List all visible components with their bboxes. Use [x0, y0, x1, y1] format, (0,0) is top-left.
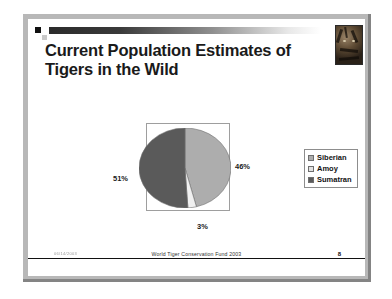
slide-page: Current Population Estimates of Tigers i… [0, 0, 392, 299]
pie-chart [139, 128, 231, 208]
square-bullet-icon [35, 27, 41, 33]
slide-frame: Current Population Estimates of Tigers i… [23, 14, 371, 282]
slide-canvas: Current Population Estimates of Tigers i… [28, 19, 365, 276]
legend-item-amoy: Amoy [308, 164, 354, 173]
pie-label-amoy: 3% [197, 222, 208, 231]
square-bullet-secondary-icon [42, 35, 47, 40]
page-title-line2: Tigers in the Wild [45, 60, 335, 79]
chart-legend: Siberian Amoy Sumatran [304, 149, 358, 188]
page-title: Current Population Estimates of Tigers i… [45, 41, 335, 79]
page-title-line1: Current Population Estimates of [45, 41, 291, 59]
footer-divider [28, 258, 365, 259]
pie-slice-sumatran [139, 128, 188, 208]
legend-swatch-siberian [308, 155, 314, 161]
legend-swatch-sumatran [308, 177, 314, 183]
legend-label-siberian: Siberian [317, 153, 347, 162]
footer-text: World Tiger Conservation Fund 2003 [28, 251, 365, 257]
pie-label-siberian: 46% [235, 162, 250, 171]
legend-item-sumatran: Sumatran [308, 175, 354, 184]
footer-page-number: 8 [338, 251, 341, 257]
legend-item-siberian: Siberian [308, 153, 354, 162]
title-gradient-bar [49, 27, 321, 34]
legend-label-sumatran: Sumatran [317, 175, 352, 184]
tiger-photo [335, 25, 363, 65]
legend-label-amoy: Amoy [317, 164, 338, 173]
legend-swatch-amoy [308, 166, 314, 172]
pie-chart-plot-area [146, 123, 230, 211]
pie-label-sumatran: 51% [113, 174, 128, 183]
